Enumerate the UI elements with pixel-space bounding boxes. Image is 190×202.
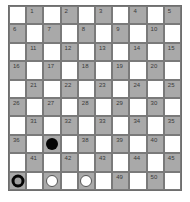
board-square-8[interactable]: 8 [78, 24, 95, 42]
board-square-2[interactable]: 2 [61, 6, 78, 24]
square-number: 12 [65, 45, 72, 51]
board-square-49[interactable]: 49 [112, 172, 129, 190]
square-number: 27 [47, 100, 54, 106]
square-number: 20 [151, 63, 158, 69]
board-square-42[interactable]: 42 [61, 153, 78, 171]
board-square-40[interactable]: 40 [147, 135, 164, 153]
board-square-3[interactable]: 3 [95, 6, 112, 24]
board-square-34[interactable]: 34 [129, 116, 146, 134]
board-square-31[interactable]: 31 [26, 116, 43, 134]
square-number: 6 [13, 26, 16, 32]
light-square [95, 135, 112, 153]
board-square-39[interactable]: 39 [112, 135, 129, 153]
board-square-47[interactable] [43, 172, 60, 190]
board-square-37[interactable] [43, 135, 60, 153]
board-square-44[interactable]: 44 [129, 153, 146, 171]
light-square [147, 80, 164, 98]
board-square-10[interactable]: 10 [147, 24, 164, 42]
board-square-38[interactable]: 38 [78, 135, 95, 153]
board-square-9[interactable]: 9 [112, 24, 129, 42]
light-square [61, 98, 78, 116]
board-square-24[interactable]: 24 [129, 80, 146, 98]
light-square [164, 98, 181, 116]
light-square [61, 24, 78, 42]
light-square [95, 98, 112, 116]
black-piece[interactable] [46, 138, 58, 150]
square-number: 5 [168, 8, 171, 14]
board-square-27[interactable]: 27 [43, 98, 60, 116]
board-square-7[interactable]: 7 [43, 24, 60, 42]
board-square-12[interactable]: 12 [61, 43, 78, 61]
board-square-17[interactable]: 17 [43, 61, 60, 79]
board-square-32[interactable]: 32 [61, 116, 78, 134]
board-square-6[interactable]: 6 [9, 24, 26, 42]
square-number: 1 [30, 8, 33, 14]
light-square [43, 153, 60, 171]
board-square-29[interactable]: 29 [112, 98, 129, 116]
square-number: 4 [133, 8, 136, 14]
board-square-19[interactable]: 19 [112, 61, 129, 79]
square-number: 15 [168, 45, 175, 51]
board-square-16[interactable]: 16 [9, 61, 26, 79]
board-square-14[interactable]: 14 [129, 43, 146, 61]
board-square-20[interactable]: 20 [147, 61, 164, 79]
square-number: 50 [151, 174, 158, 180]
light-square [9, 43, 26, 61]
board-square-35[interactable]: 35 [164, 116, 181, 134]
square-number: 21 [30, 82, 37, 88]
board-square-48[interactable] [78, 172, 95, 190]
square-number: 30 [151, 100, 158, 106]
light-square [26, 24, 43, 42]
board-square-28[interactable]: 28 [78, 98, 95, 116]
board-square-5[interactable]: 5 [164, 6, 181, 24]
light-square [112, 43, 129, 61]
light-square [147, 6, 164, 24]
white-piece[interactable] [80, 175, 92, 187]
square-number: 3 [99, 8, 102, 14]
square-number: 17 [47, 63, 54, 69]
light-square [147, 116, 164, 134]
square-number: 23 [99, 82, 106, 88]
board-square-4[interactable]: 4 [129, 6, 146, 24]
light-square [61, 61, 78, 79]
board-square-26[interactable]: 26 [9, 98, 26, 116]
board-square-23[interactable]: 23 [95, 80, 112, 98]
light-square [129, 24, 146, 42]
light-square [78, 116, 95, 134]
board-square-18[interactable]: 18 [78, 61, 95, 79]
board-square-22[interactable]: 22 [61, 80, 78, 98]
light-square [26, 135, 43, 153]
board-square-25[interactable]: 25 [164, 80, 181, 98]
light-square [43, 80, 60, 98]
board-square-11[interactable]: 11 [26, 43, 43, 61]
light-square [164, 61, 181, 79]
board-square-21[interactable]: 21 [26, 80, 43, 98]
white-piece[interactable] [46, 175, 58, 187]
board-square-41[interactable]: 41 [26, 153, 43, 171]
square-number: 19 [116, 63, 123, 69]
board-square-33[interactable]: 33 [95, 116, 112, 134]
square-number: 2 [65, 8, 68, 14]
light-square [78, 153, 95, 171]
board-square-30[interactable]: 30 [147, 98, 164, 116]
board-square-15[interactable]: 15 [164, 43, 181, 61]
black-king-piece[interactable] [11, 174, 24, 187]
board-square-46[interactable] [9, 172, 26, 190]
light-square [129, 98, 146, 116]
square-number: 35 [168, 118, 175, 124]
light-square [95, 24, 112, 42]
board-square-50[interactable]: 50 [147, 172, 164, 190]
light-square [78, 43, 95, 61]
board-square-1[interactable]: 1 [26, 6, 43, 24]
light-square [112, 153, 129, 171]
square-number: 44 [133, 155, 140, 161]
light-square [26, 61, 43, 79]
light-square [147, 43, 164, 61]
square-number: 10 [151, 26, 158, 32]
board-square-43[interactable]: 43 [95, 153, 112, 171]
board-square-45[interactable]: 45 [164, 153, 181, 171]
square-number: 9 [116, 26, 119, 32]
light-square [112, 116, 129, 134]
board-square-36[interactable]: 36 [9, 135, 26, 153]
board-square-13[interactable]: 13 [95, 43, 112, 61]
